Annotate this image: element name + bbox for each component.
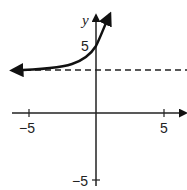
x-tick-label-5: 5 [160, 120, 168, 136]
x-tick-label-neg5: −5 [19, 120, 35, 136]
y-tick-label-5: 5 [81, 38, 89, 54]
exponential-graph: y 5 −5 5 −5 [0, 0, 187, 190]
y-tick-label-neg5: −5 [72, 173, 88, 189]
y-axis-label: y [80, 12, 89, 28]
